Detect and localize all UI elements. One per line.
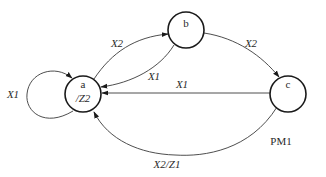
state-c-name: c [286, 78, 291, 90]
state-a-name: a [81, 78, 86, 90]
state-b: b [168, 12, 204, 48]
diagram-caption: PM1 [270, 135, 291, 147]
label-b-a: X1 [147, 70, 160, 82]
edge-b-a-x1 [101, 45, 174, 87]
state-a: a /Z2 [65, 76, 101, 112]
edge-b-c-x2 [204, 33, 279, 77]
edge-c-a-x2z1 [94, 107, 277, 155]
state-diagram: a /Z2 b c X1 X2 X1 X2 X1 X2/Z1 PM1 [0, 0, 326, 177]
label-a-b: X2 [110, 37, 124, 49]
label-b-c: X2 [244, 37, 258, 49]
state-a-output: /Z2 [75, 92, 91, 104]
state-b-name: b [183, 17, 189, 29]
label-c-a-x2z1: X2/Z1 [153, 158, 181, 170]
label-a-a: X1 [6, 88, 19, 100]
state-c: c [270, 76, 306, 112]
label-c-a-x1: X1 [175, 78, 188, 90]
